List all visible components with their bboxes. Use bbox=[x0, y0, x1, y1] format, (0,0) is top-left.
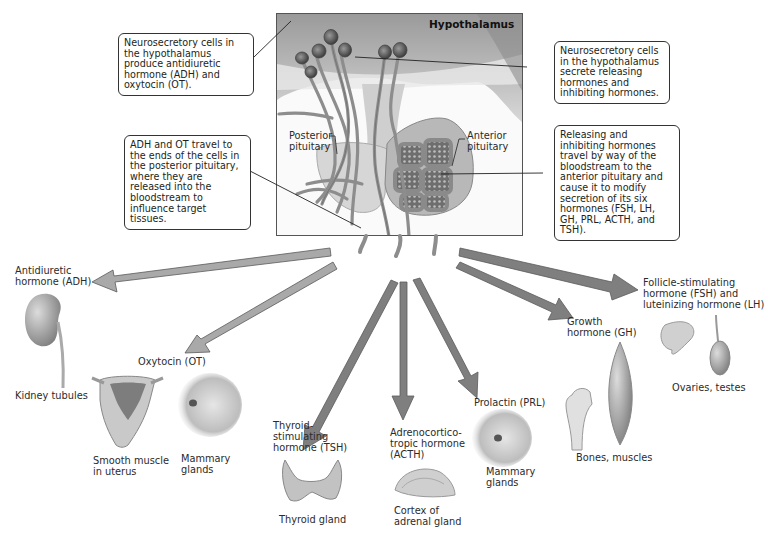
label-fsh-lh: Follicle-stimulating hormone (FSH) and l… bbox=[643, 277, 764, 310]
label-uterus: Smooth muscle in uterus bbox=[93, 455, 169, 477]
leader-line-mid-left bbox=[250, 171, 361, 228]
arrow-ot bbox=[185, 262, 337, 353]
label-ovaries-testes: Ovaries, testes bbox=[672, 382, 746, 393]
arrow-prl bbox=[413, 278, 478, 398]
callout-posterior-release: ADH and OT travel to the ends of the cel… bbox=[124, 135, 251, 230]
callout-anterior-secretion: Releasing and inhibiting hormones travel… bbox=[554, 125, 680, 241]
callout-hypothalamus-adh-ot: Neurosecretory cells in the hypothalamus… bbox=[118, 33, 254, 96]
label-mammary-ot: Mammary glands bbox=[181, 453, 230, 475]
label-adh: Antidiuretic hormone (ADH) bbox=[15, 265, 91, 287]
label-tsh: Thyroid- stimulating hormone (TSH) bbox=[273, 420, 347, 453]
label-bones-muscles: Bones, muscles bbox=[576, 452, 652, 463]
label-ot: Oxytocin (OT) bbox=[138, 356, 206, 367]
leader-line-top-right bbox=[355, 57, 527, 67]
leader-line-mid-right bbox=[441, 173, 543, 174]
arrow-acth bbox=[392, 282, 414, 420]
callout-releasing-hormones: Neurosecretory cells in the hypothalamus… bbox=[554, 41, 670, 104]
leader-line-top-left bbox=[253, 21, 291, 58]
label-gh: Growth hormone (GH) bbox=[567, 316, 637, 338]
label-thyroid-gland: Thyroid gland bbox=[279, 514, 346, 525]
label-prl: Prolactin (PRL) bbox=[474, 397, 545, 408]
label-kidney-tubules: Kidney tubules bbox=[15, 390, 88, 401]
label-mammary-prl: Mammary glands bbox=[486, 466, 535, 488]
label-acth: Adrenocortico- tropic hormone (ACTH) bbox=[390, 427, 465, 460]
label-adrenal-cortex: Cortex of adrenal gland bbox=[394, 505, 461, 527]
